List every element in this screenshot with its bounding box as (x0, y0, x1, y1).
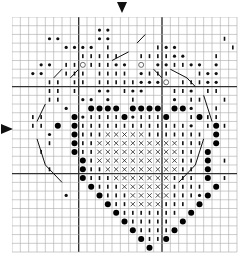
cross-symbol (156, 193, 160, 197)
tick-symbol (49, 98, 51, 102)
tick-symbol (182, 202, 184, 206)
tick-symbol (207, 124, 209, 128)
tick-symbol (140, 220, 142, 224)
cross-symbol (122, 141, 126, 145)
cross-symbol (172, 167, 176, 171)
tick-symbol (90, 159, 92, 163)
tick-symbol (90, 63, 92, 67)
cross-symbol (147, 141, 151, 145)
small-dot-symbol (140, 89, 143, 92)
cross-symbol (147, 185, 151, 189)
tick-symbol (174, 63, 176, 67)
small-dot-symbol (173, 46, 176, 49)
large-dot-symbol (188, 210, 194, 216)
large-dot-symbol (147, 245, 153, 251)
tick-symbol (99, 176, 101, 180)
cross-symbol (147, 193, 151, 197)
large-dot-symbol (163, 114, 169, 120)
tick-symbol (157, 124, 159, 128)
tick-symbol (107, 63, 109, 67)
tick-symbol (149, 54, 151, 58)
cross-symbol (106, 132, 110, 136)
cross-symbol (122, 167, 126, 171)
small-dot-symbol (90, 98, 93, 101)
tick-symbol (165, 220, 167, 224)
tick-symbol (174, 124, 176, 128)
cross-symbol (147, 158, 151, 162)
small-dot-symbol (65, 194, 68, 197)
tick-symbol (165, 133, 167, 137)
small-dot-symbol (73, 46, 76, 49)
tick-symbol (174, 193, 176, 197)
small-dot-symbol (123, 63, 126, 66)
large-dot-symbol (72, 123, 78, 129)
cross-symbol (164, 176, 168, 180)
tick-symbol (57, 89, 59, 93)
cross-symbol (164, 158, 168, 162)
small-dot-symbol (131, 115, 134, 118)
cross-symbol (122, 176, 126, 180)
tick-symbol (124, 124, 126, 128)
small-dot-symbol (206, 81, 209, 84)
tick-symbol (149, 220, 151, 224)
large-dot-symbol (72, 132, 78, 138)
tick-symbol (115, 54, 117, 58)
large-dot-symbol (122, 114, 128, 120)
small-dot-symbol (190, 89, 193, 92)
tick-symbol (199, 98, 201, 102)
tick-symbol (157, 115, 159, 119)
cross-symbol (122, 158, 126, 162)
tick-symbol (82, 141, 84, 145)
cross-symbol (164, 193, 168, 197)
large-dot-symbol (130, 105, 136, 111)
tick-symbol (107, 185, 109, 189)
large-dot-symbol (205, 192, 211, 198)
tick-symbol (182, 89, 184, 93)
cross-symbol (156, 176, 160, 180)
large-dot-symbol (180, 105, 186, 111)
tick-symbol (132, 211, 134, 215)
cross-symbol (97, 158, 101, 162)
tick-symbol (140, 211, 142, 215)
small-dot-symbol (81, 46, 84, 49)
small-dot-symbol (56, 37, 59, 40)
large-dot-symbol (72, 149, 78, 155)
tick-symbol (82, 80, 84, 84)
tick-symbol (82, 54, 84, 58)
large-dot-symbol (205, 175, 211, 181)
tick-symbol (107, 45, 109, 49)
cross-symbol (122, 185, 126, 189)
cross-symbol (114, 158, 118, 162)
cross-symbol (139, 158, 143, 162)
tick-symbol (40, 115, 42, 119)
cross-symbol (106, 150, 110, 154)
small-dot-symbol (65, 46, 68, 49)
large-dot-symbol (147, 105, 153, 111)
small-dot-symbol (140, 81, 143, 84)
tick-symbol (165, 228, 167, 232)
tick-symbol (182, 159, 184, 163)
hollow-circle-symbol (139, 62, 144, 67)
tick-symbol (115, 202, 117, 206)
tick-symbol (182, 193, 184, 197)
backstitch-line (137, 34, 145, 43)
large-dot-symbol (213, 184, 219, 190)
tick-symbol (149, 237, 151, 241)
tick-symbol (115, 72, 117, 76)
cross-symbol (147, 202, 151, 206)
small-dot-symbol (215, 63, 218, 66)
tick-symbol (224, 37, 226, 41)
large-dot-symbol (213, 132, 219, 138)
tick-symbol (107, 176, 109, 180)
cross-symbol (131, 132, 135, 136)
large-dot-symbol (172, 105, 178, 111)
cross-symbol (156, 202, 160, 206)
grid-lines (12, 17, 238, 253)
small-dot-symbol (106, 37, 109, 40)
large-dot-symbol (72, 140, 78, 146)
large-dot-symbol (213, 140, 219, 146)
tick-symbol (190, 193, 192, 197)
tick-symbol (215, 106, 217, 110)
cross-symbol (131, 185, 135, 189)
tick-symbol (190, 159, 192, 163)
